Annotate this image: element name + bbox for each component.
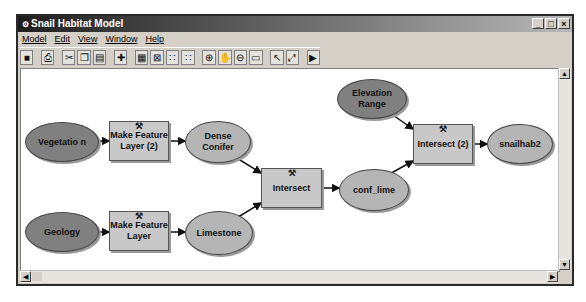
scroll-right-icon[interactable]: ▶ <box>547 271 558 282</box>
copy-icon[interactable]: ❐ <box>77 50 90 65</box>
select-icon[interactable]: ↖ <box>270 50 283 65</box>
menu-model[interactable]: Model <box>22 32 47 46</box>
pan-icon[interactable]: ✋ <box>218 50 232 65</box>
toolbar: ■ ⎙ ✂ ❐ ▤ ✚ ▦ ⊠ ∷ ∷ ⊕ ✋ ⊖ ▭ ↖ ⤢ ▶ <box>20 47 320 66</box>
zoom-in-icon[interactable]: ⊕ <box>202 50 215 65</box>
add-data-icon[interactable]: ✚ <box>114 50 127 65</box>
display-icon[interactable]: ▭ <box>249 50 262 65</box>
maximize-button[interactable]: □ <box>545 18 557 29</box>
node-make-feature-layer[interactable]: ⚒Make Feature Layer <box>109 211 169 251</box>
paste-icon[interactable]: ▤ <box>93 50 106 65</box>
print-icon[interactable]: ⎙ <box>41 50 54 65</box>
save-icon[interactable]: ■ <box>20 50 33 65</box>
zoom-out-fixed-icon[interactable]: ∷ <box>181 50 194 65</box>
node-make-feature-layer-2[interactable]: ⚒Make Feature Layer (2) <box>109 121 169 161</box>
menu-view[interactable]: View <box>78 32 97 46</box>
scroll-up-icon[interactable]: ▲ <box>559 68 570 79</box>
run-icon[interactable]: ▶ <box>307 50 320 65</box>
model-canvas[interactable]: Vegetatio n ⚒Make Feature Layer (2) Dens… <box>20 68 560 272</box>
node-elevation-range[interactable]: Elevation Range <box>337 79 407 119</box>
modelbuilder-icon: ⚙ <box>22 20 29 29</box>
node-vegetation[interactable]: Vegetatio n <box>25 122 99 162</box>
menu-edit[interactable]: Edit <box>55 32 71 46</box>
node-intersect-2[interactable]: ⚒Intersect (2) <box>413 124 473 164</box>
auto-layout-icon[interactable]: ▦ <box>135 50 148 65</box>
tool-icon: ⚒ <box>135 211 143 222</box>
node-geology[interactable]: Geology <box>25 212 99 252</box>
tool-icon: ⚒ <box>135 121 143 132</box>
connect-icon[interactable]: ⤢ <box>286 50 299 65</box>
node-dense-conifer[interactable]: Dense Conifer <box>185 121 251 163</box>
node-intersect[interactable]: ⚒Intersect <box>261 168 322 208</box>
node-snailhab2[interactable]: snailhab2 <box>487 124 553 164</box>
window-title: Snail Habitat Model <box>31 18 123 29</box>
tool-icon: ⚒ <box>439 124 447 135</box>
close-button[interactable]: × <box>558 18 570 29</box>
vertical-scrollbar[interactable]: ▲ ▼ <box>558 68 571 270</box>
zoom-in-fixed-icon[interactable]: ∷ <box>166 50 179 65</box>
horizontal-scrollbar[interactable]: ◀ ▶ <box>20 270 558 283</box>
minimize-button[interactable]: _ <box>532 18 544 29</box>
title-bar[interactable]: ⚙Snail Habitat Model _ □ × <box>18 16 572 32</box>
node-conf-lime[interactable]: conf_lime <box>339 169 409 211</box>
cut-icon[interactable]: ✂ <box>62 50 75 65</box>
node-limestone[interactable]: Limestone <box>185 211 253 255</box>
menu-window[interactable]: Window <box>105 32 137 46</box>
full-extent-icon[interactable]: ⊠ <box>150 50 163 65</box>
tool-icon: ⚒ <box>288 168 296 179</box>
zoom-out-icon[interactable]: ⊖ <box>234 50 247 65</box>
scroll-thumb[interactable] <box>32 272 42 281</box>
model-window: ⚙Snail Habitat Model _ □ × Model Edit Vi… <box>16 14 574 286</box>
scroll-down-icon[interactable]: ▼ <box>559 259 570 270</box>
menu-help[interactable]: Help <box>145 32 164 46</box>
menu-bar: Model Edit View Window Help <box>18 32 572 46</box>
scroll-left-icon[interactable]: ◀ <box>20 271 31 282</box>
